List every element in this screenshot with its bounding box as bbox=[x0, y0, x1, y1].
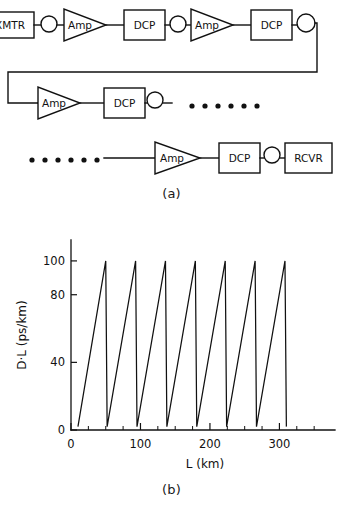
amplifier-label: Amp bbox=[195, 19, 219, 31]
y-tick-label: 40 bbox=[50, 355, 65, 369]
dispersion-map-chart: 04080100 0100200300 L (km) D·L (ps/km) bbox=[0, 232, 343, 482]
chart-axes bbox=[71, 240, 335, 430]
amplifier-label: Amp bbox=[68, 19, 92, 31]
x-tick-label: 300 bbox=[268, 437, 290, 451]
dcp-label: DCP bbox=[134, 19, 156, 31]
x-tick-label: 100 bbox=[129, 437, 151, 451]
dcp-label: DCP bbox=[261, 19, 283, 31]
fiber-spool bbox=[170, 16, 186, 32]
ellipsis-dots bbox=[29, 157, 99, 162]
y-tick-label: 0 bbox=[58, 423, 65, 437]
amplifier-label: Amp bbox=[42, 97, 66, 109]
transmitter-label: XMTR bbox=[0, 19, 25, 31]
x-axis-tick-labels: 0100200300 bbox=[67, 437, 290, 451]
panel-a-caption: (a) bbox=[0, 186, 343, 201]
receiver-label: RCVR bbox=[294, 152, 323, 164]
x-tick-label: 0 bbox=[67, 437, 74, 451]
fiber-spool bbox=[41, 16, 57, 32]
ellipsis-dots bbox=[189, 103, 259, 108]
panel-b-caption: (b) bbox=[0, 482, 343, 497]
y-axis-ticks bbox=[71, 261, 77, 430]
fiber-spool bbox=[264, 147, 280, 163]
fiber-spool bbox=[297, 14, 315, 32]
link-block-diagram: XMTR Amp DCP Amp DCP Amp DCP Amp DCP RCV… bbox=[0, 0, 343, 185]
dispersion-sawtooth-series bbox=[78, 261, 286, 427]
y-tick-label: 100 bbox=[43, 254, 65, 268]
y-axis-tick-labels: 04080100 bbox=[43, 254, 65, 437]
x-tick-label: 200 bbox=[199, 437, 221, 451]
dcp-label: DCP bbox=[114, 97, 136, 109]
y-axis-title: D·L (ps/km) bbox=[15, 300, 29, 369]
figure-root: XMTR Amp DCP Amp DCP Amp DCP Amp DCP RCV… bbox=[0, 0, 343, 512]
dcp-label: DCP bbox=[229, 152, 251, 164]
fiber-spool bbox=[147, 92, 163, 108]
y-tick-label: 80 bbox=[50, 288, 65, 302]
x-axis-title: L (km) bbox=[186, 457, 225, 471]
amplifier-label: Amp bbox=[160, 152, 184, 164]
